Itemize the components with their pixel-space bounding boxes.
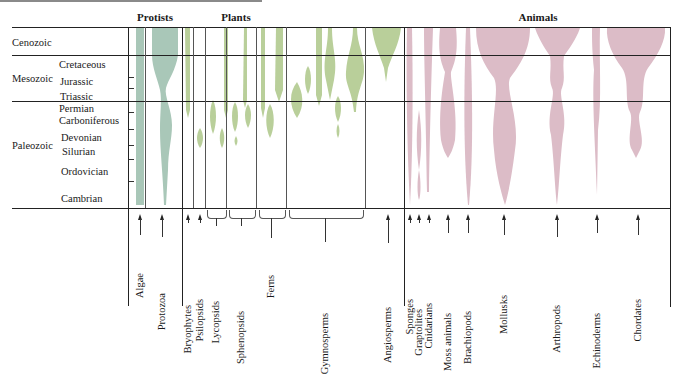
label-arthropods-text: Arthropods bbox=[551, 305, 562, 353]
era-paleozoic: Paleozoic bbox=[12, 140, 53, 151]
gymnosperms-spindle-1 bbox=[291, 82, 302, 118]
label-angiosperms-text: Angiosperms bbox=[382, 307, 393, 363]
cnidarians-spindle bbox=[424, 28, 433, 192]
tick-silurian bbox=[129, 159, 134, 160]
label-moss-animals-text: Moss animals bbox=[442, 313, 453, 371]
label-ferns: Ferns bbox=[265, 213, 279, 313]
label-ferns-text: Ferns bbox=[265, 275, 276, 298]
lycopsids-spindle-1 bbox=[210, 100, 216, 134]
plants-spindles bbox=[185, 28, 401, 148]
plants-column-line-4 bbox=[256, 27, 257, 208]
label-sphenopsids-text: Sphenopsids bbox=[235, 311, 246, 364]
label-psilopsids-text: Psilopsids bbox=[194, 299, 205, 342]
grid-top-line bbox=[12, 27, 671, 28]
label-psilopsids: Psilopsids bbox=[194, 213, 208, 313]
cenozoic-mesozoic-boundary bbox=[12, 55, 671, 56]
tick-triassic bbox=[129, 88, 134, 89]
ferns-spindle-1 bbox=[261, 28, 265, 118]
tick-ordovician bbox=[129, 181, 134, 182]
label-echinoderms: Echinoderms bbox=[591, 213, 605, 313]
lycopsids-spindle-2 bbox=[220, 128, 225, 148]
right-border bbox=[670, 27, 671, 307]
period-triassic: Triassic bbox=[60, 91, 93, 102]
mesozoic-paleozoic-boundary bbox=[12, 101, 671, 102]
period-ordovician: Ordovician bbox=[61, 166, 108, 177]
time-axis-line bbox=[128, 27, 129, 306]
plants-column-line-3 bbox=[226, 27, 227, 208]
period-devonian: Devonian bbox=[61, 132, 102, 143]
period-cambrian: Cambrian bbox=[61, 193, 102, 204]
gymnosperms-spindle-6 bbox=[337, 124, 340, 138]
period-permian: Permian bbox=[59, 103, 94, 114]
label-protozoa-text: Protozoa bbox=[156, 293, 167, 330]
label-mollusks-text: Mollusks bbox=[498, 295, 509, 334]
protists-column-line bbox=[145, 27, 146, 208]
moss-animals-spindle bbox=[439, 28, 457, 158]
label-chordates: Chordates bbox=[632, 213, 646, 313]
label-brachiopods-text: Brachiopods bbox=[462, 311, 473, 364]
label-lycopsids-text: Lycopsids bbox=[210, 301, 221, 344]
tick-permian bbox=[129, 112, 134, 113]
sphenopsids-spindle-4 bbox=[245, 104, 251, 128]
tick-devonian bbox=[129, 145, 134, 146]
sphenopsids-spindle-2 bbox=[235, 136, 238, 146]
label-bryophytes-text: Bryophytes bbox=[182, 305, 193, 353]
label-algae: Algae bbox=[134, 213, 148, 313]
echinoderms-spindle bbox=[592, 28, 600, 195]
bryophytes-spindle bbox=[185, 28, 190, 118]
label-lycopsids: Lycopsids bbox=[210, 213, 224, 313]
plants-column-line-2 bbox=[205, 27, 206, 208]
period-silurian: Silurian bbox=[62, 146, 95, 157]
label-angiosperms: Angiosperms bbox=[382, 213, 396, 313]
gymnosperms-spindle-2 bbox=[305, 66, 311, 94]
era-mesozoic: Mesozoic bbox=[12, 73, 53, 84]
plants-column-line-6 bbox=[365, 27, 366, 208]
label-chordates-text: Chordates bbox=[632, 299, 643, 342]
plants-column-line-1 bbox=[193, 27, 194, 208]
label-gymnosperms-text: Gymnosperms bbox=[319, 313, 330, 374]
label-moss-animals: Moss animals bbox=[442, 213, 456, 313]
psilopsids-spindle bbox=[197, 128, 203, 148]
period-jurassic: Jurassic bbox=[60, 76, 93, 87]
label-brachiopods: Brachiopods bbox=[462, 213, 476, 313]
sphenopsids-spindle-3 bbox=[243, 28, 247, 108]
label-echinoderms-text: Echinoderms bbox=[591, 313, 602, 368]
label-protozoa: Protozoa bbox=[156, 213, 170, 313]
ferns-spindle-3 bbox=[275, 28, 283, 102]
period-carboniferous: Carboniferous bbox=[59, 115, 119, 126]
label-cnidarians-text: Cnidarians bbox=[423, 303, 434, 349]
label-cnidarians: Cnidarians bbox=[423, 213, 437, 313]
gymnosperms-spindle-3 bbox=[316, 28, 322, 106]
grid-bottom-line bbox=[12, 208, 671, 209]
era-cenozoic: Cenozoic bbox=[12, 37, 52, 48]
tick-jurassic bbox=[129, 77, 134, 78]
graptolites-spindle bbox=[417, 110, 422, 200]
gymnosperms-spindle-7 bbox=[346, 28, 364, 112]
chordates-spindle bbox=[607, 28, 665, 158]
plants-column-line-5 bbox=[286, 27, 287, 208]
period-cretaceous: Cretaceous bbox=[59, 59, 106, 70]
label-sphenopsids: Sphenopsids bbox=[235, 213, 249, 313]
ferns-spindle-2 bbox=[266, 104, 274, 138]
tick-carboniferous bbox=[129, 129, 134, 130]
sphenopsids-spindle-1 bbox=[232, 102, 238, 132]
gymnosperms-spindle-5 bbox=[335, 96, 341, 122]
label-algae-text: Algae bbox=[134, 273, 145, 298]
label-gymnosperms: Gymnosperms bbox=[319, 213, 333, 313]
label-mollusks: Mollusks bbox=[498, 213, 512, 313]
label-arthropods: Arthropods bbox=[551, 213, 565, 313]
gymnosperms-spindle-4 bbox=[325, 28, 336, 100]
